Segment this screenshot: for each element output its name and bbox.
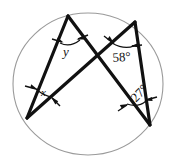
- angle-arrowhead-27-left: [120, 104, 129, 109]
- angle-arrowhead-y-right: [77, 36, 85, 40]
- chord-topleft-to-bottomleft: [27, 16, 68, 118]
- figure-canvas: [0, 0, 175, 168]
- angle-label-y: y: [63, 45, 69, 58]
- angle-arrowhead-x-left: [30, 84, 37, 89]
- geometry-figure: y 58° x 27°: [0, 0, 175, 168]
- angle-label-58: 58°: [112, 50, 131, 64]
- angle-label-x: x: [41, 87, 46, 98]
- chord-topright-to-bottomleft: [27, 22, 135, 118]
- angle-arc-58: [112, 43, 134, 47]
